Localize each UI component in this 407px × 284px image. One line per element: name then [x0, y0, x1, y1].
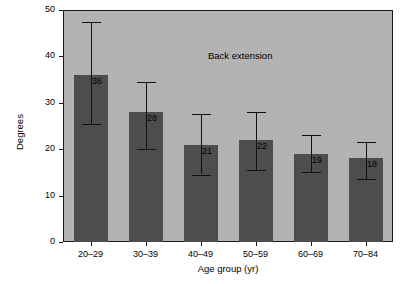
error-bar-cap-top: [82, 22, 101, 23]
x-tick-label: 60–69: [283, 249, 338, 259]
x-tick-label: 50–59: [228, 249, 283, 259]
y-tick-mark: [59, 10, 63, 11]
error-bar-cap-bottom: [82, 124, 101, 125]
error-bar-cap-top: [137, 82, 156, 83]
x-axis-label: Age group (yr): [63, 263, 393, 274]
y-axis-label: Degrees: [14, 114, 25, 150]
bar-value-label: 21: [202, 146, 222, 156]
x-tick-mark: [311, 242, 312, 246]
y-tick-mark: [59, 56, 63, 57]
bar-value-label: 36: [92, 76, 112, 86]
y-tick-mark: [59, 196, 63, 197]
x-tick-label: 70–84: [338, 249, 393, 259]
x-tick-mark: [256, 242, 257, 246]
error-bar-cap-bottom: [302, 172, 321, 173]
x-tick-mark: [91, 242, 92, 246]
plot-area: [63, 10, 393, 242]
error-bar-cap-top: [357, 142, 376, 143]
y-tick-label: 10: [29, 190, 55, 200]
x-tick-mark: [201, 242, 202, 246]
x-tick-mark: [366, 242, 367, 246]
error-bar-cap-top: [192, 114, 211, 115]
chart-annotation: Back extension: [208, 50, 272, 61]
error-bar-cap-bottom: [137, 149, 156, 150]
error-bar-cap-bottom: [192, 175, 211, 176]
bar-value-label: 22: [257, 141, 277, 151]
x-tick-label: 20–29: [63, 249, 118, 259]
y-tick-label: 20: [29, 143, 55, 153]
bar-value-label: 18: [367, 159, 387, 169]
y-tick-label: 30: [29, 97, 55, 107]
error-bar-cap-top: [247, 112, 266, 113]
y-tick-label: 40: [29, 50, 55, 60]
error-bar-line: [311, 135, 312, 172]
y-tick-label: 50: [29, 4, 55, 14]
x-tick-label: 30–39: [118, 249, 173, 259]
y-tick-mark: [59, 242, 63, 243]
x-tick-label: 40–49: [173, 249, 228, 259]
error-bar-cap-bottom: [247, 170, 266, 171]
error-bar-cap-bottom: [357, 179, 376, 180]
y-tick-mark: [59, 103, 63, 104]
y-tick-mark: [59, 149, 63, 150]
chart-container: Degrees 01020304050 362821221918 20–2930…: [0, 0, 407, 284]
y-tick-label: 0: [29, 236, 55, 246]
error-bar-line: [91, 22, 92, 124]
error-bar-line: [201, 114, 202, 174]
bar-value-label: 19: [312, 155, 332, 165]
bar-value-label: 28: [147, 113, 167, 123]
error-bar-cap-top: [302, 135, 321, 136]
x-tick-mark: [146, 242, 147, 246]
